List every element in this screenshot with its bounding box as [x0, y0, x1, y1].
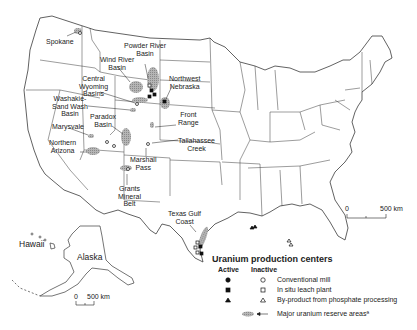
legend-row-in-situ-leach: In situ leach plant: [277, 286, 331, 293]
legend-inactive-header: Inactive: [251, 266, 277, 273]
label-alaska: Alaska: [77, 254, 103, 262]
label-marysvale: Marysvale: [52, 123, 84, 131]
alaska-outline: [12, 226, 134, 296]
label-front-range: Front Range: [178, 111, 199, 126]
label-paradox-basin: Paradox Basin: [90, 113, 116, 128]
us-map: [0, 0, 417, 330]
scale-alaska-start: 0: [74, 293, 78, 300]
legend-row-reserve-areas: Major uranium reserve areasª: [277, 310, 369, 317]
label-tallahassee-creek: Tallahassee Creek: [178, 137, 215, 152]
legend-title: Uranium production centers: [212, 254, 333, 264]
state-borders: [26, 26, 372, 216]
legend-row-phosphate-byproduct: By-product from phosphate processing: [277, 296, 397, 303]
legend-symbols: [226, 278, 269, 317]
label-texas-gulf-coast: Texas Gulf Coast: [168, 210, 201, 225]
label-marshall-pass: Marshall Pass: [130, 156, 156, 171]
label-hawaii: Hawaii: [19, 241, 45, 249]
label-northern-arizona: Northern Arizona: [49, 139, 76, 154]
label-wind-river-basin: Wind River Basin: [100, 56, 134, 71]
label-powder-river-basin: Powder River Basin: [124, 42, 166, 57]
label-spokane: Spokane: [46, 38, 74, 46]
scale-bar-main: [347, 214, 386, 218]
scale-alaska-end: 500 km: [87, 293, 110, 300]
uranium-map-figure: Spokane Powder River Basin Wind River Ba…: [0, 0, 417, 330]
legend-row-conventional-mill: Conventional mill: [277, 276, 330, 283]
scale-bar-alaska: [76, 301, 94, 305]
label-grants-mineral-belt: Grants Mineral Belt: [118, 185, 141, 208]
scale-main-start: 0: [345, 205, 349, 212]
label-northwest-nebraska: Northwest Nebraska: [169, 75, 201, 90]
legend-active-header: Active: [218, 266, 239, 273]
scale-main-end: 500 km: [380, 205, 403, 212]
label-washakie-sand-wash-basin: Washakie- Sand Wash Basin: [52, 95, 88, 118]
